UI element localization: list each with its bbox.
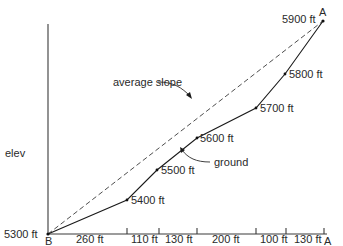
segment-label-2: 110 ft	[131, 233, 158, 245]
average-slope-line	[48, 21, 323, 234]
point-a	[321, 19, 324, 22]
ground-leader	[182, 150, 210, 162]
point-a-name-label: A	[319, 6, 327, 18]
segment-label-1: 260 ft	[76, 233, 104, 245]
segment-label-4: 200 ft	[212, 233, 240, 245]
segment-label-5: 100 ft	[260, 233, 288, 245]
point-5600	[196, 137, 199, 140]
point-5400	[126, 199, 129, 202]
segment-label-6: 130 ft	[294, 233, 322, 245]
ground-annotation: ground	[214, 156, 248, 168]
label-5500: 5500 ft	[161, 164, 195, 176]
segment-label-3: 130 ft	[165, 233, 193, 245]
point-b-elevation-label: 5300 ft	[4, 228, 38, 240]
average-slope-annotation: average slope	[113, 76, 182, 88]
point-a-elevation-label: 5900 ft	[282, 13, 316, 25]
label-5700: 5700 ft	[260, 102, 294, 114]
label-5800: 5800 ft	[289, 68, 323, 80]
point-5800	[284, 73, 287, 76]
diagram-canvas: elev 5300 ft B 5400 ft 5500 ft 5600 ft 5…	[0, 0, 343, 246]
y-axis-label: elev	[5, 147, 26, 159]
point-5700	[255, 107, 258, 110]
point-b-name-label: B	[45, 235, 52, 246]
label-5600: 5600 ft	[200, 132, 234, 144]
contour-slope-diagram: elev 5300 ft B 5400 ft 5500 ft 5600 ft 5…	[0, 0, 343, 246]
label-5400: 5400 ft	[131, 194, 165, 206]
x-axis-end-label: A	[324, 235, 332, 246]
point-5500	[156, 169, 159, 172]
